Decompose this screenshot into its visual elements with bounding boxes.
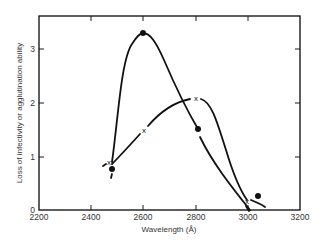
data-point-dot [140,30,146,36]
data-point-dot [255,193,261,199]
curve-segment [103,164,106,166]
chart: 2200 2400 2600 2800 3000 3200 Wavelength… [0,0,325,243]
y-tick-label: 0 [30,205,35,215]
x-tick-label: 2400 [82,212,101,222]
data-point-x: x [142,126,146,135]
data-point-x: x [107,158,111,167]
agglutination-curve [201,99,247,200]
x-axis: 2200 2400 2600 2800 3000 3200 Wavelength… [30,16,310,234]
x-axis-title: Wavelength (Å) [142,225,197,234]
y-tick-label: 1 [30,152,35,162]
curve-tail [251,200,265,207]
y-tick-label: 3 [30,44,35,54]
data-point-x: x [194,94,198,103]
plot-frame [39,16,300,210]
y-axis-title: Loss of infectivity or agglutination abi… [15,43,24,184]
x-tick-label: 3000 [239,212,258,222]
data-point-x: x [245,197,249,206]
x-tick-label: 3200 [291,212,310,222]
agglutination-curve [112,134,140,164]
data-point-dot [195,126,201,132]
x-tick-label: 2800 [187,212,206,222]
y-tick-label: 2 [30,98,35,108]
x-tick-label: 2600 [134,212,153,222]
infectivity-curve [112,33,198,162]
series-agglutination: x x x x [103,94,249,211]
curve-segment [111,174,112,178]
series-infectivity [109,30,265,210]
y-axis: 0 1 2 3 Loss of infectivity or agglutina… [15,43,300,215]
